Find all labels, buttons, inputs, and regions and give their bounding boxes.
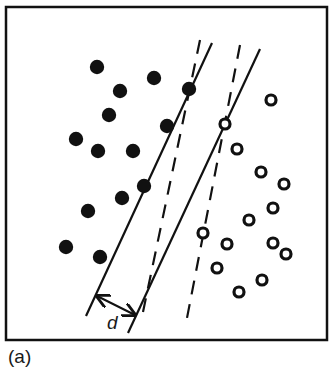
class-hollow-circles [198,95,291,297]
filled-data-point [160,119,174,133]
filled-data-point [137,179,151,193]
class-filled-dots [59,60,196,264]
filled-data-point [147,71,161,85]
hollow-data-point [244,215,254,225]
filled-data-point [113,84,127,98]
hollow-data-point [279,179,289,189]
hollow-data-point [220,119,230,129]
hollow-data-point [212,263,222,273]
filled-data-point [59,240,73,254]
hollow-data-point [268,203,278,213]
hollow-data-point [198,228,208,238]
hollow-data-point [281,249,291,259]
hollow-data-point [234,287,244,297]
filled-data-point [115,191,129,205]
hollow-data-point [257,275,267,285]
figure-caption: (a) [8,346,31,368]
filled-data-point [182,82,196,96]
filled-data-point [91,144,105,158]
margin-label-d: d [107,312,119,333]
filled-data-point [69,132,83,146]
filled-data-point [93,250,107,264]
filled-data-point [126,144,140,158]
filled-data-point [81,204,95,218]
filled-data-point [90,60,104,74]
hollow-data-point [256,167,266,177]
hollow-data-point [268,238,278,248]
filled-data-point [102,108,116,122]
svm-margin-diagram: d [0,0,333,386]
diagram-frame [6,7,327,340]
hollow-data-point [222,239,232,249]
hollow-data-point [266,95,276,105]
hollow-data-point [232,144,242,154]
